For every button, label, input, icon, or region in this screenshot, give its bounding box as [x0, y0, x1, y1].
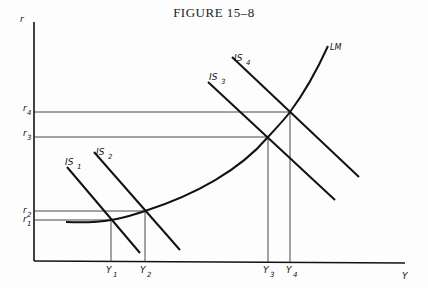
is2-label: IS 2 [96, 147, 113, 161]
guide-y1-r1 [34, 220, 111, 262]
svg-text:Y: Y [263, 265, 270, 275]
svg-text:IS: IS [209, 72, 218, 82]
is3-line [208, 82, 335, 200]
svg-text:1: 1 [27, 220, 31, 228]
svg-text:4: 4 [293, 271, 297, 279]
is1-line [67, 167, 140, 253]
svg-text:3: 3 [27, 134, 31, 142]
r3-tick-label: r 3 [23, 128, 31, 142]
guide-y4-r4 [34, 112, 290, 262]
figure: FIGURE 15–8 r Y LM IS 1 I [0, 0, 428, 288]
guide-y2-r2 [34, 211, 145, 262]
svg-text:IS: IS [65, 157, 74, 167]
svg-text:IS: IS [96, 147, 105, 157]
svg-text:2: 2 [147, 271, 152, 279]
svg-text:Y: Y [286, 265, 293, 275]
is4-line [232, 57, 359, 177]
y1-tick-label: Y 1 [106, 265, 117, 279]
y4-tick-label: Y 4 [286, 265, 297, 279]
is4-label: IS 4 [234, 53, 250, 67]
svg-text:3: 3 [270, 271, 274, 279]
is2-line [94, 152, 180, 250]
r4-tick-label: r 4 [23, 103, 31, 117]
svg-text:4: 4 [246, 59, 250, 67]
svg-text:3: 3 [221, 78, 225, 86]
svg-text:1: 1 [113, 271, 117, 279]
svg-text:Y: Y [140, 265, 147, 275]
svg-text:2: 2 [27, 211, 32, 219]
svg-text:4: 4 [27, 109, 31, 117]
y3-tick-label: Y 3 [263, 265, 274, 279]
y2-tick-label: Y 2 [140, 265, 152, 279]
guide-y3-r3 [34, 137, 268, 262]
svg-text:1: 1 [77, 163, 81, 171]
svg-text:Y: Y [106, 265, 113, 275]
x-axis [34, 261, 405, 263]
lm-label: LM [330, 43, 341, 52]
svg-text:2: 2 [108, 153, 113, 161]
svg-text:IS: IS [234, 53, 243, 63]
is-lm-chart: r Y LM IS 1 IS 2 IS 3 IS 4 r 1 r 2 r [0, 0, 428, 288]
x-axis-label: Y [402, 271, 409, 281]
y-axis-label: r [20, 14, 25, 24]
guide-lines [34, 112, 290, 262]
lm-curve [66, 46, 328, 222]
